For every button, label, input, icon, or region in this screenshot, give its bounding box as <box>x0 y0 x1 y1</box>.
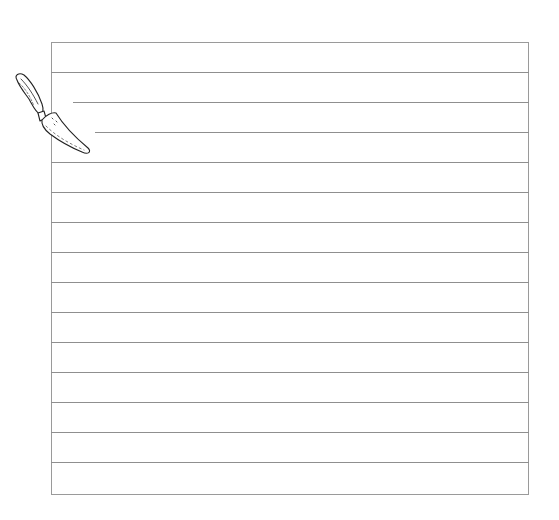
writing-sheet-border <box>51 42 529 495</box>
ruled-line <box>51 72 529 73</box>
ruled-line <box>51 372 529 373</box>
ruled-line <box>51 342 529 343</box>
ruled-line <box>73 102 529 103</box>
ruled-line <box>51 462 529 463</box>
ruled-line <box>51 432 529 433</box>
ruled-line <box>51 222 529 223</box>
ruled-line <box>51 162 529 163</box>
ruled-line <box>51 312 529 313</box>
garden-trowel-icon <box>0 0 120 170</box>
ruled-line <box>51 282 529 283</box>
ruled-line <box>51 192 529 193</box>
ruled-line <box>51 402 529 403</box>
ruled-line <box>95 132 529 133</box>
ruled-line <box>51 252 529 253</box>
